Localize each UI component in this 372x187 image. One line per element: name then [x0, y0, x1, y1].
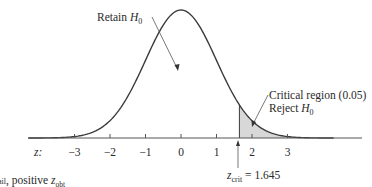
retain-arrow-line	[152, 17, 177, 68]
reject-h0-label: Reject H0	[269, 102, 314, 117]
critical-arrow-line	[253, 95, 268, 124]
normal-curve	[28, 10, 333, 138]
tick-label: −3	[68, 146, 80, 158]
zcrit-label: zcrit = 1.645	[226, 169, 281, 184]
tick-label: 0	[178, 146, 184, 158]
tick-label: −2	[104, 146, 116, 158]
tick-label: 3	[285, 146, 291, 158]
tick-label: −1	[139, 146, 151, 158]
one-tailed-z-test-diagram: −3−2−10123 z: Retain H0 Critical region …	[0, 0, 372, 187]
cropped-caption: ail, positive zobt	[0, 174, 66, 187]
retain-h0-label: Retain H0	[97, 11, 142, 26]
tick-label: 1	[214, 146, 220, 158]
tick-label: 2	[249, 146, 255, 158]
z-axis-label: z:	[33, 146, 42, 158]
zcrit-arrow-head	[236, 140, 240, 146]
retain-arrow-head	[175, 64, 180, 71]
critical-region-label: Critical region (0.05)	[269, 89, 367, 102]
